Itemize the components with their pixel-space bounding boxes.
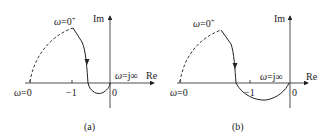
nyquist-diagrams: ω=0+ ω=0 −1 0 ω=j∞ Re Im (a) ω=0+ ω=0 −1… <box>0 0 328 137</box>
label-omega-zero-plus: ω=0+ <box>193 17 215 29</box>
label-minus-one: −1 <box>244 87 255 98</box>
re-axis-label: Re <box>146 70 158 81</box>
dashed-arc <box>180 30 221 82</box>
label-minus-one: −1 <box>66 87 77 98</box>
caption-b: (b) <box>232 121 244 133</box>
label-omega-zero-plus: ω=0+ <box>54 15 76 27</box>
label-omega-zero: ω=0 <box>170 87 188 98</box>
im-axis-label: Im <box>93 13 104 24</box>
panel-b: ω=0+ ω=0 −1 0 ω=j∞ Re Im (b) <box>170 13 318 133</box>
label-origin: 0 <box>292 87 297 98</box>
dashed-arc <box>30 28 73 82</box>
im-axis-label: Im <box>274 13 285 24</box>
nyquist-curve <box>73 28 110 94</box>
label-omega-zero: ω=0 <box>14 87 32 98</box>
nyquist-curve <box>221 30 289 100</box>
direction-arrow-icon <box>233 63 238 69</box>
panel-a: ω=0+ ω=0 −1 0 ω=j∞ Re Im (a) <box>14 13 158 133</box>
re-axis-label: Re <box>306 71 318 82</box>
label-origin: 0 <box>112 87 117 98</box>
direction-arrow-icon <box>85 59 90 65</box>
label-omega-jinf: ω=j∞ <box>115 70 138 81</box>
label-omega-jinf: ω=j∞ <box>260 71 283 82</box>
caption-a: (a) <box>84 121 95 133</box>
